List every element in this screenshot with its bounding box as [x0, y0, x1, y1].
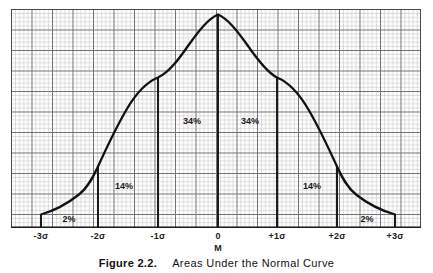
figure-container: -3σ -2σ -1σ 0 M +1σ +2σ +3σ 2% 14% 34% 3…	[0, 0, 433, 273]
axis-tick-label-minus-2-sigma: -2σ	[91, 231, 106, 242]
axis-tick-label-plus-1-sigma: +1σ	[268, 231, 285, 242]
figure-caption-title: Areas Under the Normal Curve	[172, 257, 334, 269]
normal-curve-overlay	[11, 9, 421, 228]
axis-tick-label-plus-2-sigma: +2σ	[328, 231, 345, 242]
figure-caption: Figure 2.2. Areas Under the Normal Curve	[0, 257, 433, 269]
area-label-right-2-percent: 2%	[360, 214, 373, 224]
graph-plot-area	[11, 9, 421, 228]
area-label-left-34-percent: 34%	[183, 116, 201, 126]
axis-tick-label-plus-3-sigma: +3σ	[386, 231, 403, 242]
area-label-right-14-percent: 14%	[303, 181, 321, 191]
area-label-right-34-percent: 34%	[241, 116, 259, 126]
area-label-left-14-percent: 14%	[115, 181, 133, 191]
axis-tick-label-zero: 0	[215, 231, 220, 242]
figure-caption-number: Figure 2.2.	[99, 257, 157, 269]
axis-mean-marker-label: M	[214, 243, 222, 254]
area-label-left-2-percent: 2%	[62, 214, 75, 224]
axis-tick-label-minus-1-sigma: -1σ	[151, 231, 166, 242]
axis-tick-label-minus-3-sigma: -3σ	[34, 231, 49, 242]
